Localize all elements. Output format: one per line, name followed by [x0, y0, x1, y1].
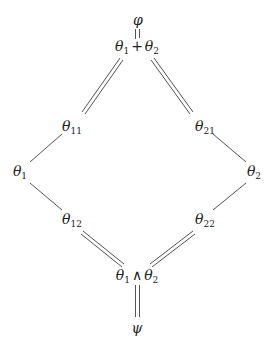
- node-theta11: θ11: [62, 119, 82, 136]
- operator: ∧: [132, 267, 142, 283]
- node-subscript: 1: [123, 46, 129, 56]
- edge-sum-n21: [151, 58, 193, 114]
- node-subscript: 2: [153, 46, 159, 56]
- node-theta1: θ1: [13, 164, 27, 181]
- operator: +: [131, 38, 143, 54]
- node-theta21: θ21: [195, 119, 215, 136]
- node-subscript: 12: [70, 219, 81, 229]
- edge-n1-n12: [30, 183, 62, 210]
- edge-n11-n1: [30, 134, 62, 162]
- edge-n12-meet: [81, 231, 124, 267]
- node-meet: θ1∧θ2: [116, 268, 159, 285]
- edge-n22-meet: [150, 231, 195, 267]
- node-subscript: 21: [203, 126, 214, 136]
- node-psi: ψ: [132, 321, 143, 335]
- node-subscript: 1: [21, 171, 27, 181]
- edge-n21-n2: [213, 134, 246, 162]
- node-subscript: 2: [153, 275, 159, 285]
- node-phi: φ: [133, 13, 143, 27]
- edge-meet-bottom: [136, 285, 140, 317]
- node-label: φ: [133, 12, 143, 28]
- node-subscript: 2: [255, 171, 261, 181]
- node-theta12: θ12: [62, 212, 82, 229]
- lattice-diagram: φ θ1+θ2 θ11 θ21 θ1 θ2 θ12 θ22 θ1∧θ2 ψ: [0, 0, 271, 345]
- node-theta22: θ22: [195, 212, 215, 229]
- node-join: θ1+θ2: [115, 39, 159, 56]
- edge-sum-n11: [82, 58, 123, 114]
- node-theta2: θ2: [247, 164, 261, 181]
- node-subscript: 11: [70, 126, 81, 136]
- edge-n2-n22: [213, 183, 246, 210]
- node-subscript: 22: [203, 219, 214, 229]
- node-label: θ: [144, 267, 152, 283]
- node-subscript: 1: [124, 275, 130, 285]
- node-label: ψ: [132, 320, 143, 336]
